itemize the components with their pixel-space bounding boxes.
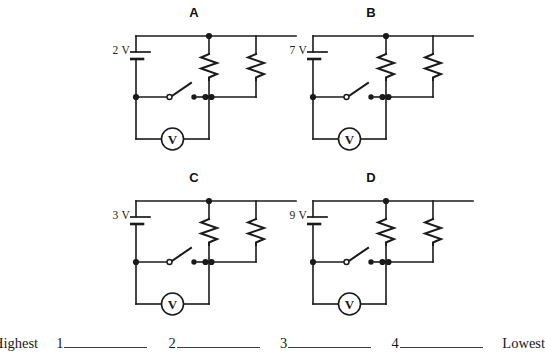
switch-pivot-contact — [191, 94, 196, 99]
ranking-slot-2-number: 2 — [168, 335, 176, 352]
junction-dot-top — [206, 198, 212, 204]
ranking-slot-4-blank[interactable] — [400, 334, 483, 348]
switch-blade — [173, 248, 192, 261]
ranking-slot-2-blank[interactable] — [177, 334, 260, 348]
switch-blade — [350, 83, 369, 96]
ranking-slot-3[interactable]: 3 — [280, 334, 371, 352]
resistor-right-body — [248, 54, 264, 80]
junction-dot-bottom-left — [310, 259, 316, 265]
voltmeter-symbol: V — [345, 297, 355, 312]
junction-dot-bottom-left — [133, 259, 139, 265]
switch-pivot-contact — [191, 259, 196, 264]
switch-open-contact — [344, 260, 349, 265]
circuit-c-battery-voltage: 3 V — [96, 209, 130, 221]
ranking-slot-3-number: 3 — [280, 335, 288, 352]
ranking-slot-2[interactable]: 2 — [168, 334, 259, 352]
junction-dot-bottom-mid-b — [385, 259, 391, 265]
resistor-left-body — [378, 219, 394, 245]
circuit-d-diagram: V — [307, 183, 477, 327]
worksheet-page: A 2 V — [0, 0, 545, 361]
switch-blade — [350, 248, 369, 261]
resistor-right-body — [425, 219, 441, 245]
switch-open-contact — [167, 95, 172, 100]
junction-dot-top — [206, 33, 212, 39]
circuit-d-battery-voltage: 9 V — [273, 209, 307, 221]
junction-dot-bottom-left — [310, 94, 316, 100]
voltmeter-symbol: V — [168, 297, 178, 312]
junction-dot-bottom-mid-a — [202, 94, 208, 100]
circuit-d: D 9 V — [273, 171, 483, 331]
ranking-slot-1-number: 1 — [56, 335, 64, 352]
junction-dot-top — [383, 198, 389, 204]
ranking-slot-1[interactable]: 1 — [56, 334, 147, 352]
ranking-slot-4-number: 4 — [392, 335, 400, 352]
switch-pivot-contact — [368, 94, 373, 99]
junction-dot-bottom-mid-b — [385, 94, 391, 100]
junction-dot-bottom-left — [133, 94, 139, 100]
junction-dot-bottom-mid-a — [379, 259, 385, 265]
resistor-left-body — [378, 54, 394, 80]
ranking-lowest-label: Lowest — [502, 335, 545, 352]
resistor-right-body — [425, 54, 441, 80]
resistor-left-body — [201, 219, 217, 245]
junction-dot-top — [383, 33, 389, 39]
resistor-right-body — [248, 219, 264, 245]
circuit-b-battery-voltage: 7 V — [273, 44, 307, 56]
ranking-slot-4[interactable]: 4 — [392, 334, 483, 352]
voltmeter-symbol: V — [345, 132, 355, 147]
voltmeter-symbol: V — [168, 132, 178, 147]
switch-open-contact — [344, 95, 349, 100]
circuit-b-diagram: V — [307, 18, 477, 162]
ranking-slot-1-blank[interactable] — [64, 334, 147, 348]
junction-dot-bottom-mid-a — [379, 94, 385, 100]
ranking-row: Highest 1 2 3 4 Lowest — [0, 330, 545, 356]
switch-blade — [173, 83, 192, 96]
switch-open-contact — [167, 260, 172, 265]
junction-dot-bottom-mid-a — [202, 259, 208, 265]
circuit-b: B 7 V — [273, 6, 483, 166]
junction-dot-bottom-mid-b — [208, 259, 214, 265]
circuit-a-battery-voltage: 2 V — [96, 44, 130, 56]
switch-pivot-contact — [368, 259, 373, 264]
ranking-highest-label: Highest — [0, 335, 38, 352]
ranking-slot-3-blank[interactable] — [288, 334, 371, 348]
junction-dot-bottom-mid-b — [208, 94, 214, 100]
resistor-left-body — [201, 54, 217, 80]
